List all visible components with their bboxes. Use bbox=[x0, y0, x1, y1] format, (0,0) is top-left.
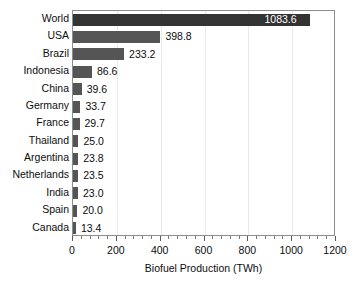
minor-tick bbox=[212, 236, 213, 239]
bar-value-label: 86.6 bbox=[97, 64, 117, 79]
minor-tick bbox=[265, 236, 266, 239]
bar-value-label: 20.0 bbox=[82, 203, 102, 218]
minor-tick bbox=[168, 236, 169, 239]
bar-row: 23.0 bbox=[73, 185, 334, 202]
category-label-world: World bbox=[0, 11, 69, 26]
category-label-brazil: Brazil bbox=[0, 46, 69, 61]
bar-value-label: 233.2 bbox=[129, 47, 155, 62]
bar-row: 39.6 bbox=[73, 81, 334, 98]
bar-china bbox=[73, 83, 82, 95]
minor-tick bbox=[274, 236, 275, 239]
major-tick bbox=[247, 236, 248, 241]
minor-tick bbox=[221, 236, 222, 239]
bar-row: 20.0 bbox=[73, 202, 334, 219]
bar-row: 398.8 bbox=[73, 28, 334, 45]
bar-row: 86.6 bbox=[73, 63, 334, 80]
minor-tick bbox=[239, 236, 240, 239]
major-tick bbox=[204, 236, 205, 241]
bar-value-label: 1083.6 bbox=[264, 12, 296, 27]
category-label-spain: Spain bbox=[0, 202, 69, 217]
minor-tick bbox=[282, 236, 283, 239]
category-label-indonesia: Indonesia bbox=[0, 63, 69, 78]
bar-row: 233.2 bbox=[73, 46, 334, 63]
biofuel-production-bar-chart: 1083.6398.8233.286.639.633.729.725.023.8… bbox=[0, 0, 357, 283]
minor-tick bbox=[256, 236, 257, 239]
bar-netherlands bbox=[73, 170, 78, 182]
bar-value-label: 29.7 bbox=[85, 116, 105, 131]
bar-value-label: 23.5 bbox=[83, 168, 103, 183]
bar-indonesia bbox=[73, 66, 92, 78]
bar-thailand bbox=[73, 135, 78, 147]
bar-row: 1083.6 bbox=[73, 11, 334, 28]
bar-value-label: 33.7 bbox=[85, 99, 105, 114]
minor-tick bbox=[98, 236, 99, 239]
minor-tick bbox=[326, 236, 327, 239]
minor-tick bbox=[309, 236, 310, 239]
minor-tick bbox=[195, 236, 196, 239]
bar-brazil bbox=[73, 48, 124, 60]
minor-tick bbox=[186, 236, 187, 239]
minor-tick bbox=[142, 236, 143, 239]
minor-tick bbox=[81, 236, 82, 239]
minor-tick bbox=[230, 236, 231, 239]
bar-spain bbox=[73, 205, 77, 217]
category-label-india: India bbox=[0, 185, 69, 200]
bar-value-label: 39.6 bbox=[87, 82, 107, 97]
bar-row: 13.4 bbox=[73, 220, 334, 236]
category-label-germany: Germany bbox=[0, 98, 69, 113]
minor-tick bbox=[177, 236, 178, 239]
bar-value-label: 23.0 bbox=[83, 186, 103, 201]
minor-tick bbox=[107, 236, 108, 239]
bar-row: 29.7 bbox=[73, 115, 334, 132]
bar-value-label: 13.4 bbox=[81, 221, 101, 236]
category-label-netherlands: Netherlands bbox=[0, 167, 69, 182]
category-label-thailand: Thailand bbox=[0, 133, 69, 148]
bar-germany bbox=[73, 101, 80, 113]
bar-canada bbox=[73, 222, 76, 234]
minor-tick bbox=[133, 236, 134, 239]
category-label-usa: USA bbox=[0, 28, 69, 43]
category-label-argentina: Argentina bbox=[0, 150, 69, 165]
minor-tick bbox=[151, 236, 152, 239]
plot-area: 1083.6398.8233.286.639.633.729.725.023.8… bbox=[72, 10, 335, 236]
category-label-china: China bbox=[0, 81, 69, 96]
minor-tick bbox=[300, 236, 301, 239]
minor-tick bbox=[90, 236, 91, 239]
bar-row: 23.5 bbox=[73, 167, 334, 184]
bar-value-label: 398.8 bbox=[165, 29, 191, 44]
bar-row: 33.7 bbox=[73, 98, 334, 115]
bar-row: 25.0 bbox=[73, 133, 334, 150]
x-tick-label: 1200 bbox=[305, 243, 357, 257]
major-tick bbox=[160, 236, 161, 241]
bar-argentina bbox=[73, 153, 78, 165]
bar-france bbox=[73, 118, 80, 130]
bar-usa bbox=[73, 31, 160, 43]
minor-tick bbox=[317, 236, 318, 239]
bar-row: 23.8 bbox=[73, 150, 334, 167]
major-tick bbox=[72, 236, 73, 241]
minor-tick bbox=[125, 236, 126, 239]
bar-value-label: 25.0 bbox=[83, 134, 103, 149]
bar-india bbox=[73, 187, 78, 199]
bar-value-label: 23.8 bbox=[83, 151, 103, 166]
x-axis-title: Biofuel Production (TWh) bbox=[72, 261, 335, 275]
major-tick bbox=[291, 236, 292, 241]
major-tick bbox=[335, 236, 336, 241]
category-label-france: France bbox=[0, 115, 69, 130]
category-label-canada: Canada bbox=[0, 220, 69, 235]
major-tick bbox=[116, 236, 117, 241]
